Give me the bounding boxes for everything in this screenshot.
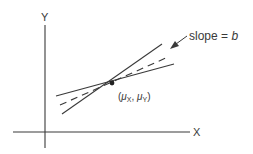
slope-label: slope = b	[189, 29, 238, 43]
slope-arrow-shaft	[176, 36, 187, 44]
x-axis-label: X	[193, 126, 201, 138]
mean-point-label: (μX, μY)	[118, 91, 151, 103]
regression-diagram: Y X (μX, μY) slope = b	[0, 0, 253, 154]
mean-point	[110, 81, 115, 86]
y-axis-label: Y	[41, 11, 49, 23]
steep-solid-line	[62, 44, 162, 114]
dashed-regression-line	[60, 57, 168, 105]
